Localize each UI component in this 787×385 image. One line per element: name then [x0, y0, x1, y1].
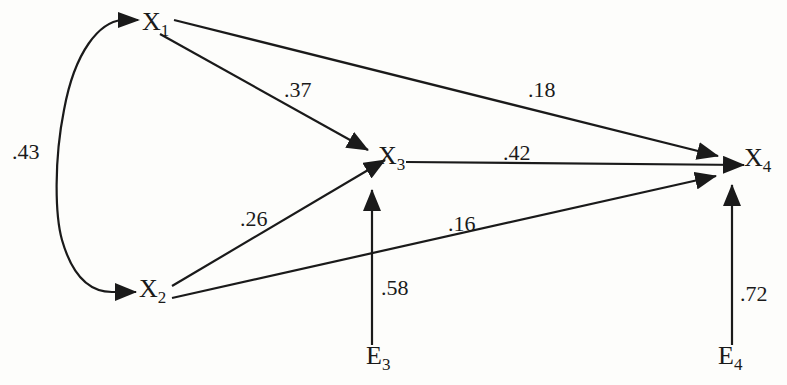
edge-x3-x4: [406, 162, 744, 165]
coef-e3-x3: .58: [381, 275, 409, 300]
coef-x2-x4: .16: [448, 211, 476, 236]
coef-x2-x3: .26: [240, 206, 268, 231]
edge-x1-x2-correlation: [57, 20, 138, 292]
coef-e4-x4: .72: [740, 281, 768, 306]
coef-x1-x3: .37: [284, 77, 312, 102]
node-x1: X1: [142, 7, 169, 40]
node-e4: E4: [718, 341, 743, 374]
node-e3: E3: [366, 341, 390, 374]
node-x4: X4: [744, 143, 772, 176]
path-diagram: X1 X2 X3 X4 E3 E4 .43 .37 .18 .26 .16 .4…: [0, 0, 787, 385]
coef-x1-x4: .18: [528, 77, 556, 102]
node-x3: X3: [378, 141, 405, 174]
coef-x3-x4: .42: [503, 140, 531, 165]
arrowhead-x1: [118, 12, 140, 28]
edge-x1-x3: [160, 34, 368, 150]
node-x2: X2: [139, 274, 166, 307]
edge-x2-x3: [172, 160, 385, 286]
coef-x1-x2: .43: [12, 139, 40, 164]
